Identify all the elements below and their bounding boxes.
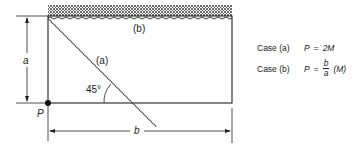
yield-line-b xyxy=(48,17,232,19)
case-b-fraction: b a xyxy=(323,59,330,78)
label-case-a: (a) xyxy=(96,55,108,66)
label-dim-a: a xyxy=(23,55,29,66)
case-a-rhs: 2M xyxy=(323,43,335,53)
dim-a-arrow-up xyxy=(25,17,29,23)
equations-panel: Case (a) P = 2M Case (b) P = b a (M) xyxy=(257,43,346,78)
case-a-label: Case (a) xyxy=(257,43,304,53)
case-b-equals: = xyxy=(314,64,319,74)
angle-arc xyxy=(104,84,111,103)
case-b-rhs: (M) xyxy=(333,64,346,74)
equation-case-b: Case (b) P = b a (M) xyxy=(257,59,346,78)
dim-a-arrow-down xyxy=(25,96,29,102)
dim-b-arrow-right xyxy=(225,129,231,133)
yield-line-a xyxy=(48,19,156,127)
fixed-edge-hatch xyxy=(48,5,232,16)
equation-case-a: Case (a) P = 2M xyxy=(257,43,346,53)
label-angle: 45° xyxy=(86,84,101,95)
dim-b-arrow-left xyxy=(49,129,55,133)
case-b-label: Case (b) xyxy=(257,64,304,74)
label-point-p: P xyxy=(37,108,44,119)
case-a-equals: = xyxy=(314,43,319,53)
label-dim-b: b xyxy=(134,125,140,136)
case-b-lhs: P xyxy=(304,64,310,74)
fraction-denominator: a xyxy=(324,69,329,78)
case-a-lhs: P xyxy=(304,43,310,53)
label-case-b: (b) xyxy=(133,23,145,34)
point-p-dot xyxy=(45,100,51,106)
